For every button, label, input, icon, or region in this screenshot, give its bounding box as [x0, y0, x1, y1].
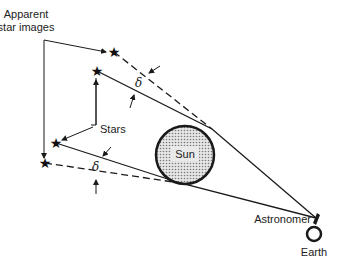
stars: ★ ★ ★ ★: [39, 44, 121, 171]
real-star-bottom-icon: ★: [50, 135, 63, 151]
apparent-star-bottom-icon: ★: [39, 155, 52, 171]
delta-bottom: δ: [92, 147, 111, 194]
earth-icon: [307, 227, 321, 241]
delta-top-label: δ: [135, 76, 142, 90]
apparent-label-line1: Apparent: [4, 8, 49, 20]
stars-label-group: Stars: [62, 78, 126, 140]
apparent-star-top-icon: ★: [108, 44, 121, 60]
delta-bottom-label: δ: [92, 160, 99, 174]
sun: Sun: [156, 126, 214, 184]
real-star-top-icon: ★: [91, 63, 104, 79]
astronomer-figure-icon: [313, 213, 320, 225]
earth-label: Earth: [301, 246, 327, 258]
deflection-diagram: Sun ★ ★ ★ ★ Apparent star images Stars δ…: [0, 0, 339, 268]
top-apparent-line: [114, 52, 212, 129]
astronomer-label: Astronomer: [254, 213, 311, 225]
delta-top: δ: [130, 66, 160, 108]
sun-label: Sun: [175, 148, 195, 160]
apparent-label-line2: star images: [0, 21, 55, 33]
stars-label: Stars: [100, 123, 126, 135]
astronomer-earth: Astronomer Earth: [254, 213, 327, 258]
